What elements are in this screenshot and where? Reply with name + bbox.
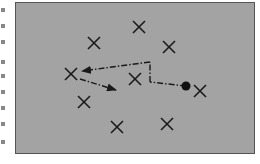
x-marker-icon — [194, 85, 206, 97]
x-marker-icon — [65, 68, 77, 80]
path-arrow — [82, 62, 150, 71]
x-marker-icon — [111, 121, 123, 133]
x-marker-icon — [129, 73, 141, 85]
x-markers — [65, 21, 206, 133]
x-marker-icon — [88, 37, 100, 49]
path-arrow — [80, 79, 116, 90]
diagram-canvas — [0, 0, 260, 164]
x-marker-icon — [78, 96, 90, 108]
x-marker-icon — [163, 41, 175, 53]
x-marker-icon — [133, 21, 145, 33]
path-segment — [150, 82, 186, 86]
start-point-dot — [182, 82, 191, 91]
x-marker-icon — [161, 118, 173, 130]
